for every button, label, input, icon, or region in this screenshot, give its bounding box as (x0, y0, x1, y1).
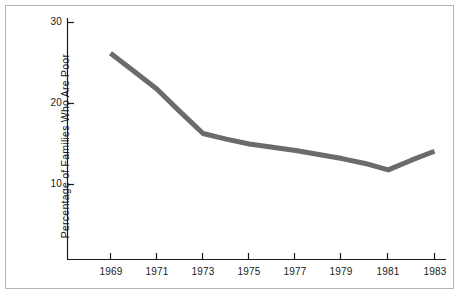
x-tick-label-1969: 1969 (91, 266, 131, 277)
y-tick-label-10: 10 (36, 178, 62, 189)
x-tick-label-1971: 1971 (137, 266, 177, 277)
plot-area (0, 0, 461, 302)
x-tick-label-1975: 1975 (229, 266, 269, 277)
x-tick-label-1983: 1983 (415, 266, 455, 277)
poverty-rate-line (111, 53, 435, 170)
y-tick-label-20: 20 (36, 97, 62, 108)
x-tick-label-1981: 1981 (368, 266, 408, 277)
axis-lines (67, 18, 446, 260)
x-tick-label-1979: 1979 (321, 266, 361, 277)
y-tick-label-30: 30 (36, 16, 62, 27)
x-tick-label-1973: 1973 (183, 266, 223, 277)
chart-figure: Percentage of Families Who Are Poor 30 2… (0, 0, 461, 302)
x-tick-label-1977: 1977 (275, 266, 315, 277)
